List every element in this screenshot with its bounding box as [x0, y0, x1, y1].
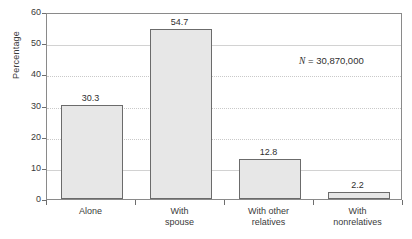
x-tick-label-line: spouse — [135, 217, 225, 228]
bar-value-label: 12.8 — [239, 147, 299, 157]
x-tick-mark — [46, 200, 47, 205]
plot-area: N = 30,870,000 — [46, 13, 402, 200]
x-tick-label-line: Alone — [46, 206, 136, 217]
x-tick-label: Withspouse — [135, 206, 225, 228]
bar-value-label: 54.7 — [150, 17, 210, 27]
x-tick-mark — [135, 200, 136, 205]
bar — [239, 159, 301, 199]
bar — [61, 105, 123, 199]
x-tick-label: With otherrelatives — [224, 206, 314, 228]
bar — [150, 29, 212, 199]
y-tick-label: 50 — [19, 39, 41, 48]
bar-value-label: 2.2 — [328, 180, 388, 190]
annotation-text: = 30,870,000 — [305, 55, 363, 66]
x-tick-label-line: With other — [224, 206, 314, 217]
x-tick-mark — [313, 200, 314, 205]
x-tick-label-line: relatives — [224, 217, 314, 228]
x-tick-label-line: With — [313, 206, 403, 217]
y-tick-label: 10 — [19, 164, 41, 173]
bar-value-label: 30.3 — [61, 93, 121, 103]
gridline — [47, 45, 401, 46]
x-tick-label: Alone — [46, 206, 136, 217]
y-tick-label: 0 — [19, 195, 41, 204]
y-tick-label: 30 — [19, 102, 41, 111]
x-tick-label: Withnonrelatives — [313, 206, 403, 228]
x-tick-mark — [402, 200, 403, 205]
x-tick-mark — [224, 200, 225, 205]
y-tick-label: 20 — [19, 133, 41, 142]
x-tick-label-line: nonrelatives — [313, 217, 403, 228]
bar — [328, 192, 390, 199]
x-tick-label-line: With — [135, 206, 225, 217]
bar-chart-figure: Percentage 0102030405060 N = 30,870,000 … — [0, 0, 412, 239]
y-axis-title: Percentage — [11, 0, 21, 115]
y-tick-label: 60 — [19, 8, 41, 17]
sample-size-annotation: N = 30,870,000 — [299, 55, 364, 66]
y-tick-label: 40 — [19, 70, 41, 79]
gridline — [47, 76, 401, 77]
